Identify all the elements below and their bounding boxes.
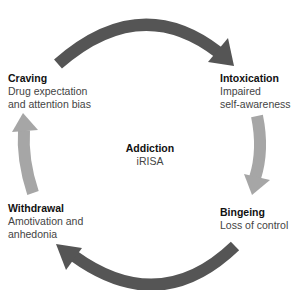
- stage-craving: Craving Drug expectation and attention b…: [8, 72, 91, 111]
- stage-description: Loss of control: [220, 219, 288, 232]
- center-title: Addiction: [110, 142, 190, 155]
- stage-title: Craving: [8, 72, 91, 85]
- stage-title: Withdrawal: [8, 202, 83, 215]
- stage-description: Amotivation and anhedonia: [8, 215, 83, 241]
- stage-title: Bingeing: [220, 206, 288, 219]
- stage-title: Intoxication: [220, 72, 291, 85]
- stage-withdrawal: Withdrawal Amotivation and anhedonia: [8, 202, 83, 241]
- stage-description: Drug expectation and attention bias: [8, 85, 91, 111]
- arrow-craving-to-intoxication: [58, 25, 234, 66]
- center-label: Addiction iRISA: [110, 142, 190, 168]
- stage-intoxication: Intoxication Impaired self-awareness: [220, 72, 291, 111]
- center-subtitle: iRISA: [110, 155, 190, 168]
- arrow-withdrawal-to-craving: [12, 113, 38, 193]
- stage-description: Impaired self-awareness: [220, 85, 291, 111]
- arrow-bingeing-to-withdrawal: [56, 244, 235, 285]
- arrow-intoxication-to-bingeing: [244, 116, 270, 195]
- stage-bingeing: Bingeing Loss of control: [220, 206, 288, 232]
